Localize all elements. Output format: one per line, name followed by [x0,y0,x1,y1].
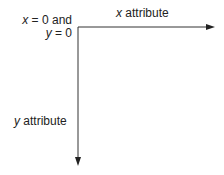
y-axis-arrowhead-icon [75,157,81,166]
axes-diagram [0,0,224,175]
x-axis-arrowhead-icon [206,24,215,30]
